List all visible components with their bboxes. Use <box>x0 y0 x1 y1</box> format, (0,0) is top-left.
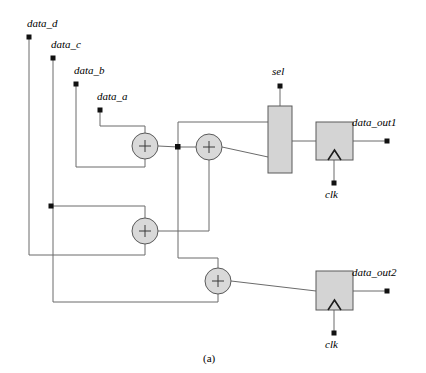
wire-data-c <box>53 59 218 302</box>
mux-block <box>268 106 292 173</box>
terminal-sel[interactable] <box>278 84 283 89</box>
label-data-a: data_a <box>97 91 128 102</box>
label-clk-1: clk <box>325 189 338 200</box>
wire-adder4-to-register2 <box>231 281 316 291</box>
register-2 <box>316 271 353 310</box>
register-1-block <box>316 122 353 160</box>
label-data-b: data_b <box>74 65 105 76</box>
wire-group-out2 <box>231 281 386 332</box>
register-2-block <box>316 271 353 310</box>
terminal-clk-1[interactable] <box>332 181 337 186</box>
wire-junction-down-to-adder4 <box>178 147 218 268</box>
adder-2 <box>196 134 222 160</box>
terminal-clk-2[interactable] <box>332 331 337 336</box>
label-data-d: data_d <box>27 18 58 29</box>
terminal-data-out1[interactable] <box>385 139 390 144</box>
wire-junction-to-mux-in0 <box>178 122 268 147</box>
terminal-data-a[interactable] <box>98 108 103 113</box>
figure-caption: (a) <box>203 352 215 364</box>
wire-adder2-to-mux-in1 <box>222 147 268 157</box>
wire-adder2-bottom-feedback <box>158 160 209 231</box>
terminal-data-c[interactable] <box>51 56 56 61</box>
terminal-data-d[interactable] <box>27 35 32 40</box>
adder-3 <box>132 218 158 244</box>
label-sel: sel <box>272 66 284 77</box>
junction-data-c-branch <box>49 204 54 209</box>
terminal-data-out2[interactable] <box>385 289 390 294</box>
wire-data-c-branch <box>53 206 145 218</box>
label-data-out2: data_out2 <box>352 267 397 278</box>
wire-group-inputs <box>29 38 218 302</box>
wire-data-a <box>100 111 145 133</box>
label-clk-2: clk <box>325 339 338 350</box>
label-data-out1: data_out1 <box>352 117 397 128</box>
circuit-schematic <box>0 0 426 373</box>
label-data-c: data_c <box>51 39 81 50</box>
terminal-data-b[interactable] <box>74 82 79 87</box>
junction-adder1-out <box>175 144 181 150</box>
register-1 <box>316 122 353 160</box>
circuit-figure: data_d data_c data_b data_a sel clk clk … <box>0 0 426 373</box>
adder-4 <box>205 268 231 294</box>
adder-1 <box>132 133 158 159</box>
